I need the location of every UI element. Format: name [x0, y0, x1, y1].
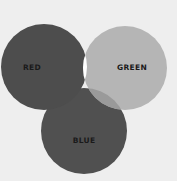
- red-set-circle: [1, 24, 87, 110]
- blue-label: BLUE: [73, 136, 96, 145]
- venn-diagram: RED GREEN BLUE: [0, 0, 177, 181]
- red-label: RED: [23, 63, 41, 72]
- green-label: GREEN: [117, 63, 147, 72]
